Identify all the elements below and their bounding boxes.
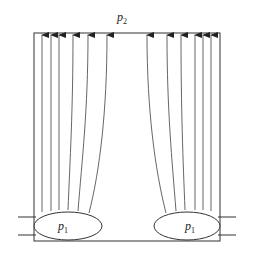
- container-box: [34, 33, 220, 241]
- left-flow-lines: [42, 35, 107, 213]
- right-flow-lines: [147, 35, 211, 213]
- right-inlet-pipes: [218, 217, 236, 235]
- top-pressure-label: p2: [116, 10, 127, 26]
- left-inlet-pipes: [18, 217, 36, 235]
- flow-diagram: p2 p1 p1: [0, 0, 253, 262]
- left-source-ellipse: [34, 212, 102, 240]
